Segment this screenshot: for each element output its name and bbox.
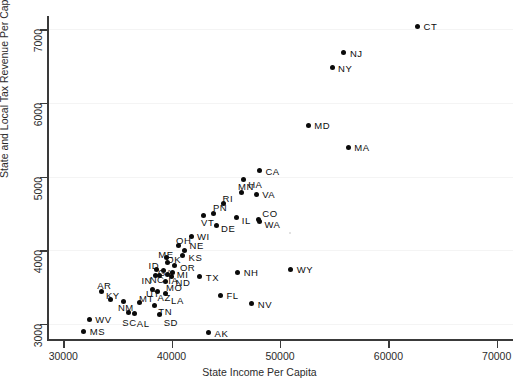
data-point-label: TX [206, 273, 219, 283]
data-point-label: MD [314, 121, 330, 131]
data-point-label: IN [141, 276, 152, 286]
y-tick-label: 3000 [31, 324, 45, 347]
data-point[interactable] [254, 192, 259, 197]
data-point-label: SD [164, 318, 178, 328]
data-point-label: CO [262, 209, 277, 219]
y-axis-label: State and Local Tax Revenue Per Capita [0, 0, 10, 178]
data-point[interactable] [126, 310, 131, 315]
data-point[interactable] [132, 311, 137, 316]
data-point-label: NY [338, 64, 352, 74]
data-point-label: AL [137, 319, 150, 329]
data-point-label: DE [221, 224, 235, 234]
y-tick-label: 7000 [31, 29, 45, 52]
data-point[interactable] [182, 248, 187, 253]
data-point-label: WA [264, 220, 280, 230]
plot-area: CTNJNYMDMACAHAMNVARIPNVTILCOWADEWIOHNEKS… [47, 16, 513, 340]
data-point-label: VA [262, 190, 275, 200]
data-point[interactable] [172, 263, 177, 268]
data-point-label: MA [354, 143, 369, 153]
data-point-label: WV [95, 315, 111, 325]
x-tick-label: 60000 [374, 350, 403, 362]
y-tick-label: 4000 [31, 250, 45, 273]
data-point-label: NH [244, 268, 259, 278]
y-tick-label: 6000 [31, 103, 45, 126]
data-point[interactable] [157, 312, 162, 317]
data-point-label: SC [122, 318, 136, 328]
data-point-label: PN [213, 203, 227, 213]
data-point[interactable] [306, 123, 311, 128]
data-point-label: MN [238, 182, 254, 192]
data-point[interactable] [257, 168, 262, 173]
data-point[interactable] [288, 267, 293, 272]
data-point-label: FL [226, 291, 238, 301]
data-point[interactable] [87, 317, 92, 322]
data-point-label: NV [258, 300, 272, 310]
x-tick-mark [280, 340, 281, 348]
data-point[interactable] [415, 24, 420, 29]
data-point-label: CA [265, 167, 279, 177]
x-tick-label: 70000 [482, 350, 511, 362]
data-point[interactable] [152, 303, 157, 308]
data-point-label: NJ [350, 49, 363, 59]
x-tick-mark [497, 340, 498, 348]
data-point-label: MS [90, 327, 105, 337]
data-point[interactable] [214, 223, 219, 228]
data-point-label: WY [297, 265, 313, 275]
data-point-label: IL [242, 216, 251, 226]
data-point[interactable] [218, 293, 223, 298]
scatter-chart-figure: 30004000500060007000 3000040000500006000… [0, 0, 519, 383]
x-axis-label: State Income Per Capita [0, 366, 519, 378]
data-point[interactable] [341, 50, 346, 55]
data-point-label: VT [201, 218, 214, 228]
data-point[interactable] [163, 291, 168, 296]
x-tick-mark [172, 340, 173, 348]
data-point[interactable] [235, 270, 240, 275]
x-tick-label: 50000 [265, 350, 294, 362]
data-point-label: LA [171, 296, 184, 306]
data-point[interactable] [249, 301, 254, 306]
x-tick-label: 30000 [49, 350, 78, 362]
data-point-label: KY [106, 291, 120, 301]
data-point-label: AK [215, 329, 229, 339]
data-point[interactable] [197, 274, 202, 279]
data-point[interactable] [330, 65, 335, 70]
data-point[interactable] [257, 219, 262, 224]
x-tick-mark [388, 340, 389, 348]
x-tick-label: 40000 [157, 350, 186, 362]
stray-speck [289, 232, 291, 234]
data-point[interactable] [346, 145, 351, 150]
data-point-label: NE [190, 241, 204, 251]
x-tick-mark [63, 340, 64, 348]
data-point[interactable] [234, 215, 239, 220]
data-point[interactable] [206, 330, 211, 335]
data-point[interactable] [81, 329, 86, 334]
y-tick-label: 5000 [31, 177, 45, 200]
data-point-label: CT [424, 22, 438, 32]
